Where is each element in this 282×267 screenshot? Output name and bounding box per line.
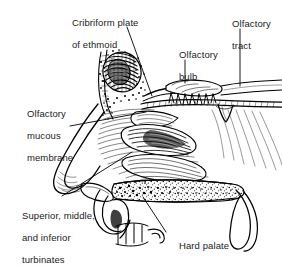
label-tract-line1: Olfactory — [232, 18, 271, 29]
label-cribriform-line1: Cribriform plate — [72, 17, 139, 28]
label-tract-line2: tract — [232, 40, 251, 51]
label-turbinates-line2: and inferior — [22, 232, 71, 243]
label-turbinates-line3: turbinates — [22, 254, 65, 265]
label-bulb-line2: bulb — [179, 71, 197, 82]
label-mucous-line2: mucous — [27, 130, 61, 141]
label-mucous-line3: membrane — [27, 152, 73, 163]
label-cribriform-plate: Cribriform plate of ethmoid — [61, 6, 139, 61]
label-hard-palate: Hard palate — [168, 229, 229, 262]
label-turbinates: Superior, middle, and inferior turbinate… — [11, 199, 95, 267]
label-cribriform-line2: of ethmoid — [72, 39, 117, 50]
label-hard-palate-line1: Hard palate — [179, 240, 229, 251]
label-bulb-line1: Olfactory — [179, 49, 218, 60]
label-mucous-line1: Olfactory — [27, 108, 66, 119]
label-olfactory-tract: Olfactory tract — [221, 7, 271, 62]
label-olfactory-mucous-membrane: Olfactory mucous membrane — [16, 97, 73, 174]
label-turbinates-line1: Superior, middle, — [22, 210, 95, 221]
label-olfactory-bulb: Olfactory bulb — [168, 38, 218, 93]
